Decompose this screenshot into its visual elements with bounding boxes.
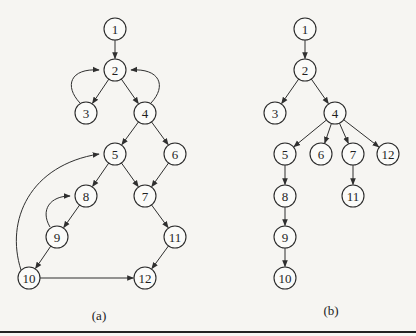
graph-b-node-5: 5 [274, 143, 296, 165]
node-label: 10 [23, 271, 36, 286]
node-label: 1 [302, 22, 309, 37]
edge-3-to-2 [71, 70, 99, 103]
edge-11-to-12 [152, 246, 169, 269]
edge-9-to-8 [46, 196, 70, 227]
edge-2-to-3 [92, 79, 108, 103]
edge-6-to-7 [152, 163, 169, 187]
edge-2-to-4 [121, 79, 138, 104]
edge-4-to-6 [151, 122, 168, 145]
node-label: 2 [302, 63, 309, 78]
edge-4-to-7 [339, 123, 348, 143]
graph-b-node-9: 9 [274, 226, 296, 248]
graph-a-node-5: 5 [104, 143, 126, 165]
graph-a-node-9: 9 [46, 226, 68, 248]
edge-7-to-11 [151, 205, 168, 228]
graph-a-node-10: 10 [18, 267, 40, 289]
edge-4-to-6 [325, 123, 332, 143]
graph-b-nodes: 123456712811910 [264, 18, 399, 289]
graph-b-node-10: 10 [274, 267, 296, 289]
node-label: 3 [272, 106, 279, 121]
graph-b-node-2: 2 [294, 59, 316, 81]
graph-a-node-3: 3 [75, 102, 97, 124]
edge-9-to-10 [35, 246, 50, 268]
node-label: 11 [169, 230, 182, 245]
node-label: 8 [83, 189, 90, 204]
graph-b-node-12: 12 [377, 143, 399, 165]
edge-2-to-4 [311, 79, 328, 104]
edge-5-to-7 [121, 163, 138, 187]
graph-b-node-1: 1 [294, 18, 316, 40]
node-label: 6 [318, 147, 325, 162]
node-label: 9 [282, 230, 289, 245]
edge-5-to-8 [93, 163, 109, 186]
graph-a-control-flow-graph: 123456789101112 [16, 18, 186, 289]
node-label: 5 [282, 147, 289, 162]
node-label: 6 [172, 147, 179, 162]
graph-a-node-7: 7 [134, 185, 156, 207]
node-label: 11 [347, 189, 360, 204]
caption-b: (b) [323, 303, 338, 319]
graph-a-node-11: 11 [164, 226, 186, 248]
node-label: 4 [332, 106, 339, 121]
graph-a-node-2: 2 [104, 59, 126, 81]
caption-a: (a) [92, 308, 106, 324]
edge-8-to-9 [64, 205, 80, 228]
node-label: 2 [112, 63, 119, 78]
edge-2-to-3 [282, 79, 299, 104]
graph-b-node-11: 11 [342, 185, 364, 207]
graph-b-dominator-tree: 123456712811910 [264, 18, 399, 289]
node-label: 5 [112, 147, 119, 162]
graph-b-node-8: 8 [274, 185, 296, 207]
edge-4-to-12 [344, 120, 379, 147]
node-label: 8 [282, 189, 289, 204]
node-label: 4 [142, 106, 149, 121]
node-label: 12 [382, 147, 395, 162]
graph-b-node-7: 7 [342, 143, 364, 165]
node-label: 9 [54, 230, 61, 245]
graph-a-node-8: 8 [75, 185, 97, 207]
figure-canvas: 123456789101112 123456712811910 [0, 0, 416, 336]
node-label: 7 [142, 189, 149, 204]
graph-a-edges [16, 40, 168, 278]
node-label: 12 [139, 271, 152, 286]
graph-a-node-12: 12 [134, 267, 156, 289]
edge-10-to-5 [16, 154, 99, 270]
edge-4-to-2 [131, 70, 159, 103]
edge-4-to-5 [122, 122, 139, 145]
bottom-rule-divider [0, 331, 416, 333]
node-label: 3 [83, 106, 90, 121]
graph-a-nodes: 123456789101112 [18, 18, 186, 289]
graph-a-node-1: 1 [104, 18, 126, 40]
node-label: 10 [279, 271, 292, 286]
graph-a-node-6: 6 [164, 143, 186, 165]
graph-b-node-4: 4 [324, 102, 346, 124]
graph-b-node-6: 6 [310, 143, 332, 165]
graph-a-node-4: 4 [134, 102, 156, 124]
node-label: 7 [350, 147, 357, 162]
node-label: 1 [112, 22, 119, 37]
graph-b-node-3: 3 [264, 102, 286, 124]
